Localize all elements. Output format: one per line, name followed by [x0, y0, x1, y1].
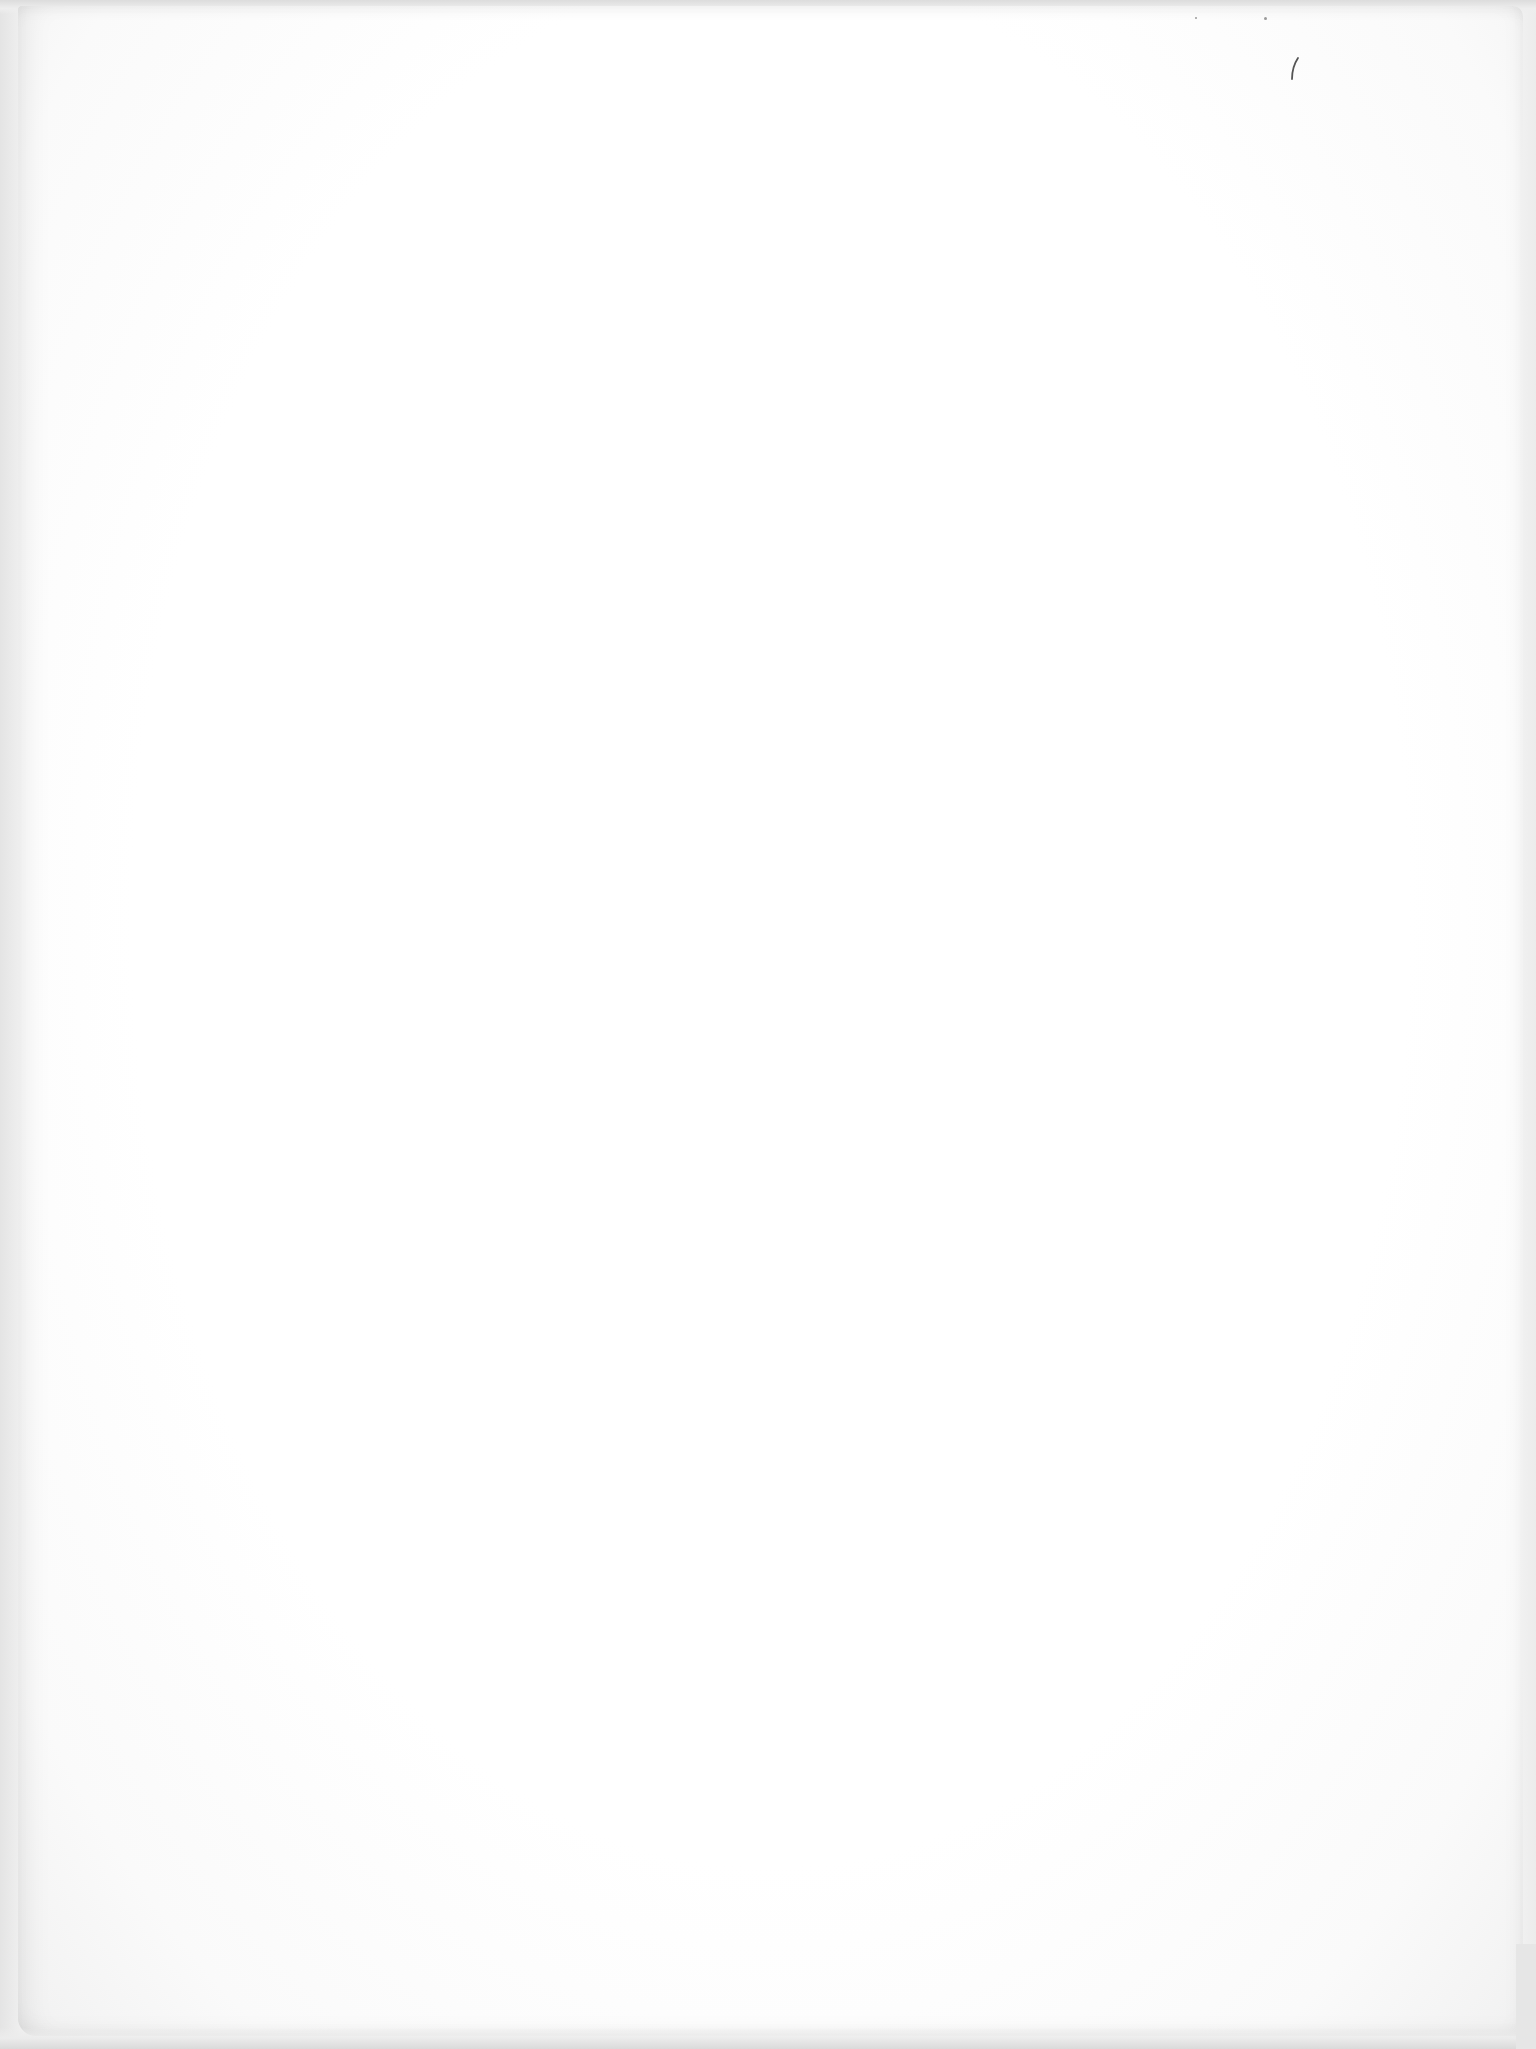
- scan-right-edge: [1516, 1944, 1536, 2049]
- scanned-page: [0, 0, 1536, 2049]
- scan-bottom-edge: [0, 2027, 1536, 2049]
- dust-speck: [1195, 17, 1197, 19]
- dust-speck: [1264, 17, 1267, 20]
- blank-paper-sheet: [18, 6, 1523, 2036]
- pen-tick-mark-icon: [1288, 56, 1302, 82]
